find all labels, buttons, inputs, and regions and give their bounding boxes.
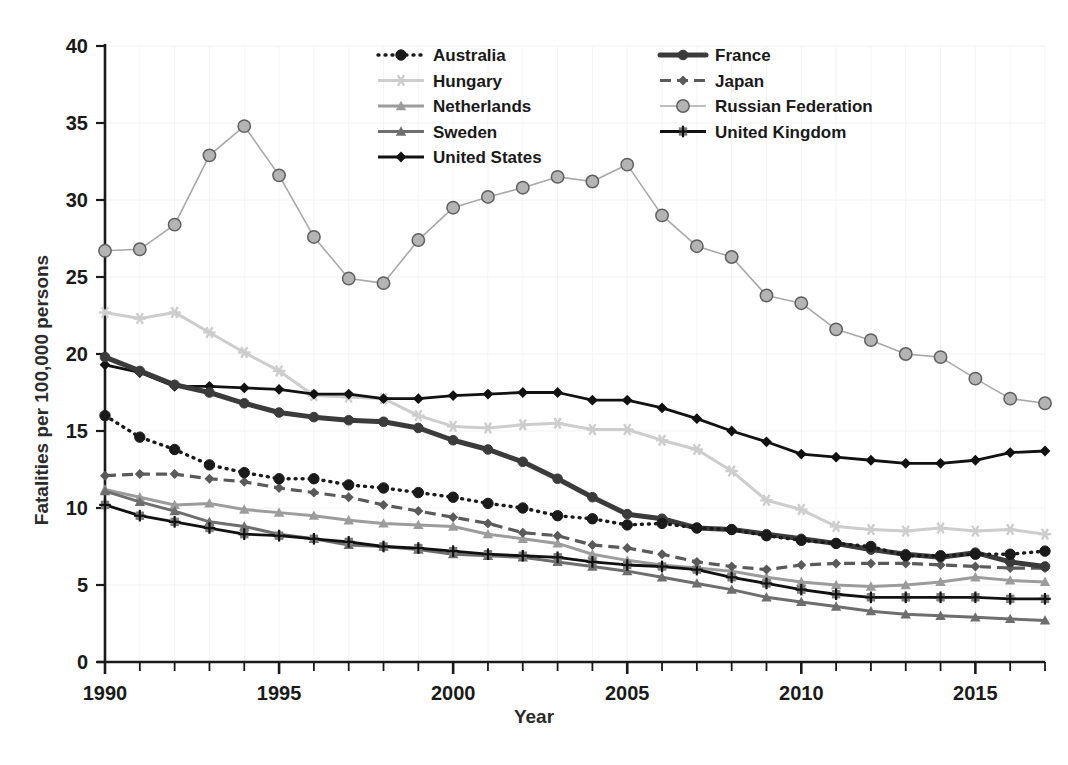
data-point — [482, 191, 494, 203]
data-point — [553, 531, 563, 541]
x-tick-label: 2015 — [953, 682, 998, 704]
data-point — [169, 444, 179, 454]
data-point — [239, 382, 250, 393]
data-point — [448, 390, 459, 401]
data-point — [552, 551, 564, 563]
data-point — [622, 520, 632, 530]
legend-label: France — [715, 46, 771, 65]
data-point — [517, 550, 529, 562]
legend-label: Australia — [433, 46, 506, 65]
y-tick-label: 20 — [66, 343, 88, 365]
data-point — [1005, 447, 1016, 458]
data-point — [830, 588, 842, 600]
x-tick-label: 1995 — [257, 682, 302, 704]
data-point — [935, 551, 945, 561]
data-point — [448, 512, 458, 522]
data-point — [795, 584, 807, 596]
data-point — [168, 218, 180, 230]
data-point — [552, 387, 563, 398]
data-point — [830, 323, 842, 335]
data-point — [970, 455, 981, 466]
legend-item-hungary[interactable]: Hungary — [378, 72, 503, 91]
legend-item-japan[interactable]: Japan — [660, 72, 764, 91]
data-point — [448, 492, 458, 502]
data-point — [691, 240, 703, 252]
data-point — [831, 538, 841, 548]
data-point — [343, 536, 355, 548]
legend-label: United States — [433, 148, 542, 167]
y-tick-label: 15 — [66, 420, 88, 442]
data-point — [414, 423, 424, 433]
legend-item-russian-federation[interactable]: Russian Federation — [660, 97, 873, 116]
data-point — [135, 432, 145, 442]
data-point — [483, 518, 493, 528]
data-point — [761, 531, 771, 541]
data-point — [657, 403, 668, 414]
data-point — [657, 518, 667, 528]
data-point — [100, 410, 110, 420]
legend-item-sweden[interactable]: Sweden — [378, 123, 497, 142]
data-point — [678, 50, 688, 60]
data-point — [900, 348, 912, 360]
legend-item-netherlands[interactable]: Netherlands — [378, 97, 531, 116]
data-point — [866, 455, 877, 466]
series-russian-federation — [99, 120, 1051, 410]
legend: AustraliaFranceHungaryJapanNetherlandsRu… — [378, 46, 873, 167]
data-point — [1039, 593, 1051, 605]
legend-label: Hungary — [433, 72, 503, 91]
data-point — [657, 549, 667, 559]
data-point — [309, 474, 319, 484]
data-point — [344, 480, 354, 490]
data-point — [273, 169, 285, 181]
data-point — [970, 549, 980, 559]
data-point — [308, 231, 320, 243]
data-point — [865, 334, 877, 346]
data-point — [274, 384, 285, 395]
data-point — [692, 523, 702, 533]
data-point — [553, 474, 563, 484]
y-tick-label: 25 — [66, 266, 88, 288]
legend-item-united-kingdom[interactable]: United Kingdom — [660, 123, 846, 142]
plot-area: 0510152025303540199019952000200520102015… — [0, 0, 1068, 765]
data-point — [586, 175, 598, 187]
data-point — [273, 530, 285, 542]
data-point — [587, 540, 597, 550]
data-point — [135, 366, 145, 376]
data-point — [935, 458, 946, 469]
legend-item-australia[interactable]: Australia — [378, 46, 506, 65]
data-point — [588, 492, 598, 502]
data-point — [622, 509, 632, 519]
data-point — [274, 483, 284, 493]
line-chart: 0510152025303540199019952000200520102015… — [0, 0, 1068, 765]
data-point — [761, 565, 771, 575]
data-point — [99, 499, 111, 511]
legend-label: Sweden — [433, 123, 497, 142]
data-point — [900, 592, 912, 604]
data-point — [309, 488, 319, 498]
data-point — [308, 389, 319, 400]
data-point — [238, 120, 250, 132]
data-point — [761, 436, 772, 447]
data-point — [1004, 593, 1016, 605]
data-point — [934, 351, 946, 363]
data-point — [866, 541, 876, 551]
data-point — [761, 578, 773, 590]
data-point — [865, 592, 877, 604]
data-point — [970, 592, 982, 604]
data-point — [796, 560, 806, 570]
data-point — [239, 477, 249, 487]
data-point — [1040, 546, 1050, 556]
data-point — [587, 556, 599, 568]
data-point — [622, 543, 632, 553]
data-point — [309, 412, 319, 422]
legend-label: Japan — [715, 72, 764, 91]
legend-item-france[interactable]: France — [660, 46, 771, 65]
x-tick-label: 1990 — [83, 682, 128, 704]
data-point — [901, 551, 911, 561]
data-point — [656, 561, 668, 573]
data-point — [622, 395, 633, 406]
data-point — [413, 542, 425, 554]
data-point — [831, 558, 841, 568]
legend-item-united-states[interactable]: United States — [378, 148, 542, 167]
series-line — [105, 312, 1045, 534]
